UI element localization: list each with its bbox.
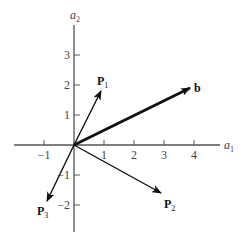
a1-tick-label: 4 xyxy=(191,148,197,162)
vector-p3-label: P3 xyxy=(37,204,48,220)
vector-p2-label: P2 xyxy=(164,197,175,213)
a2-ticks: 3 2 1 −1 −2 xyxy=(57,48,80,212)
a2-tick-label: −2 xyxy=(57,198,70,212)
vector-diagram: −1 1 2 3 4 3 2 1 −1 −2 a1 a2 P1 b xyxy=(0,0,247,244)
vector-p1-label: P1 xyxy=(97,74,108,90)
diagram-canvas: −1 1 2 3 4 3 2 1 −1 −2 a1 a2 P1 b xyxy=(0,0,247,244)
a2-tick-label: 2 xyxy=(64,78,70,92)
a1-tick-label: −1 xyxy=(38,148,51,162)
vector-b xyxy=(74,88,190,145)
a1-tick-label: 2 xyxy=(131,148,137,162)
a2-tick-label: 1 xyxy=(64,108,70,122)
vector-b-label: b xyxy=(194,81,201,95)
a1-tick-label: 3 xyxy=(161,148,167,162)
a1-ticks: −1 1 2 3 4 xyxy=(38,140,197,162)
a2-axis-label: a2 xyxy=(70,8,80,24)
vector-p2 xyxy=(74,145,161,193)
a2-tick-label: 3 xyxy=(64,48,70,62)
a1-axis-label: a1 xyxy=(224,138,234,154)
